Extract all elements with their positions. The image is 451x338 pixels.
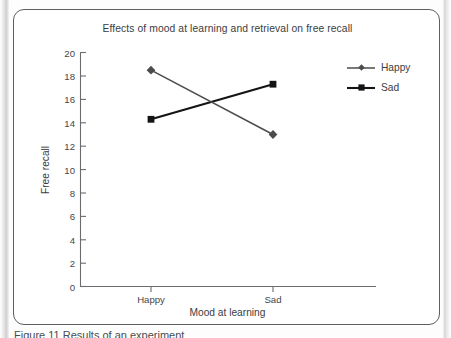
data-point-sad-sad <box>270 81 277 88</box>
y-tick-label-6: 6 <box>53 211 75 222</box>
data-point-happy-sad <box>269 130 278 139</box>
y-tick-label-14: 14 <box>53 117 75 128</box>
x-tick-marks <box>151 287 273 293</box>
line-chart: Effects of mood at learning and retrieva… <box>14 10 441 326</box>
x-tick-label-happy: Happy <box>116 294 186 305</box>
y-tick-label-20: 20 <box>53 47 75 58</box>
plot-area <box>14 10 441 326</box>
legend-label-happy: Happy <box>381 62 410 73</box>
series-line-happy <box>151 70 273 134</box>
y-tick-label-10: 10 <box>53 164 75 175</box>
y-tick-label-8: 8 <box>53 188 75 199</box>
figure-caption: Figure 11 Results of an experiment <box>14 329 314 338</box>
data-point-happy-happy <box>147 66 156 75</box>
x-tick-label-sad: Sad <box>238 294 308 305</box>
y-tick-label-2: 2 <box>53 258 75 269</box>
y-tick-label-12: 12 <box>53 141 75 152</box>
legend-item-happy: Happy <box>347 59 442 76</box>
y-tick-label-16: 16 <box>53 94 75 105</box>
scan-edge-left <box>0 0 9 338</box>
legend-item-sad: Sad <box>347 79 442 96</box>
y-tick-marks <box>81 53 87 287</box>
y-tick-label-4: 4 <box>53 234 75 245</box>
legend-swatch-sad <box>347 82 375 94</box>
x-axis-title: Mood at learning <box>14 307 441 318</box>
chart-legend: Happy Sad <box>347 59 442 99</box>
legend-swatch-happy <box>347 62 375 74</box>
legend-label-sad: Sad <box>381 82 399 93</box>
square-marker-icon <box>357 83 366 92</box>
y-axis-title: Free recall <box>40 146 51 194</box>
figure-frame: Effects of mood at learning and retrieva… <box>13 9 440 325</box>
data-point-sad-happy <box>148 116 155 123</box>
y-tick-label-18: 18 <box>53 71 75 82</box>
y-tick-label-0: 0 <box>53 281 75 292</box>
diamond-marker-icon <box>357 63 366 72</box>
page-background: Effects of mood at learning and retrieva… <box>0 0 451 338</box>
scan-edge-right <box>443 0 451 338</box>
